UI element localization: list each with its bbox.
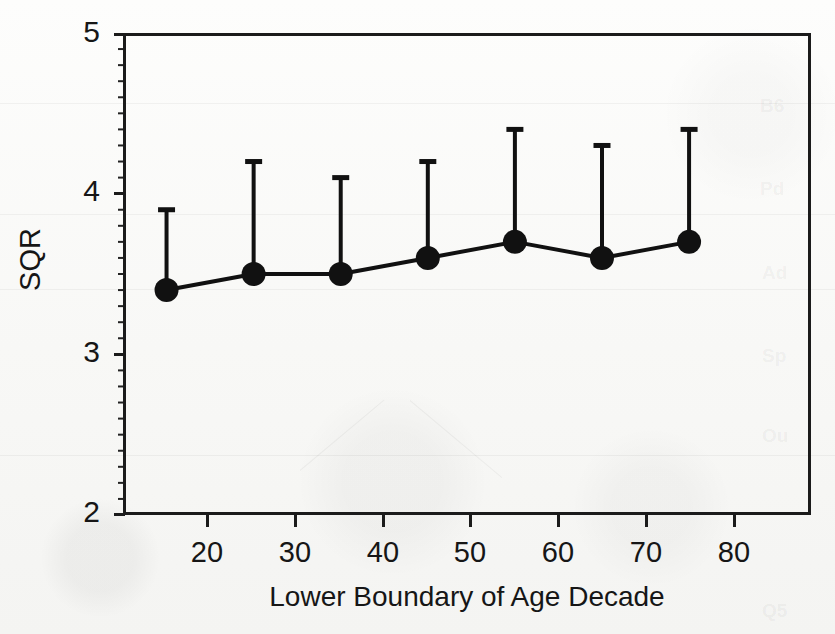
- x-tick-20: [206, 515, 209, 527]
- x-tick-label-70: 70: [616, 538, 676, 567]
- y-tick-label-3: 3: [60, 337, 100, 367]
- chart-figure: 5 4 3 2 SQR 20 30 40 50 60 70 80 Lower B…: [0, 0, 835, 634]
- y-axis-label: SQR: [16, 190, 45, 330]
- x-axis-label: Lower Boundary of Age Decade: [123, 583, 811, 611]
- x-tick-70: [645, 515, 648, 527]
- x-tick-label-50: 50: [440, 538, 500, 567]
- x-tick-50: [469, 515, 472, 527]
- x-tick-80: [733, 515, 736, 527]
- y-tick-label-4: 4: [60, 176, 100, 206]
- x-tick-40: [382, 515, 385, 527]
- x-tick-60: [557, 515, 560, 527]
- x-tick-label-60: 60: [528, 538, 588, 567]
- x-tick-label-40: 40: [353, 538, 413, 567]
- plot-area-frame: [123, 33, 811, 515]
- y-tick-label-5: 5: [60, 17, 100, 47]
- x-tick-label-30: 30: [265, 538, 325, 567]
- y-tick-4: [114, 192, 125, 195]
- y-tick-2: [114, 513, 125, 516]
- x-tick-label-20: 20: [177, 538, 237, 567]
- y-tick-5: [114, 33, 125, 36]
- x-tick-30: [294, 515, 297, 527]
- x-tick-label-80: 80: [704, 538, 764, 567]
- y-tick-3: [114, 353, 125, 356]
- y-tick-label-2: 2: [60, 497, 100, 527]
